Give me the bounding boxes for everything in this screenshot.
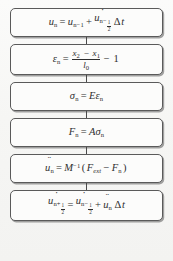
fraction-numerator: x2 − x1 (72, 49, 100, 59)
process-box-stress-update[interactable]: σn = E εn (10, 82, 163, 111)
constant-one: 1 (112, 54, 120, 65)
flow-step-strain-update: εn = x2 − x1 l0 − 1 (10, 44, 163, 82)
equation-velocity-update: un+12 = un−12 + un Δ t (48, 196, 125, 215)
flow-step-stress-update: σn = E εn (10, 82, 163, 118)
symbol-F-ext: Fext (87, 163, 102, 174)
process-box-force-update[interactable]: Fn = A σn (10, 118, 163, 147)
symbol-epsilon-n: εn (53, 54, 61, 65)
symbol-t: t (122, 200, 125, 211)
symbol-sigma-n: σn (70, 91, 79, 102)
equation-displacement-update: un = un−1 + un−12 Δ t (49, 13, 125, 32)
symbol-x-1: x1 (93, 49, 101, 58)
connector-line-5 (86, 183, 87, 190)
symbol-F-n: Fn (112, 163, 122, 174)
process-box-strain-update[interactable]: εn = x2 − x1 l0 − 1 (10, 44, 163, 75)
equation-strain-update: εn = x2 − x1 l0 − 1 (53, 49, 120, 69)
flow-step-displacement-update: un = un−1 + un−12 Δ t (10, 8, 163, 44)
symbol-delta: Δ (112, 200, 122, 211)
symbol-l-0: l0 (83, 61, 89, 70)
symbol-u-n-minus-1: un−1 (68, 17, 84, 28)
connector-line-4 (86, 147, 87, 154)
flowchart-diagram: un = un−1 + un−12 Δ t εn = x2 − x1 (0, 0, 173, 261)
fraction-one-half: 12 (88, 203, 92, 215)
fraction-denominator: l0 (83, 60, 89, 70)
symbol-uddot-n: un (103, 200, 112, 211)
equation-stress-update: σn = E εn (70, 91, 103, 102)
symbol-uddot-n: un (45, 163, 54, 174)
equation-force-update: Fn = A σn (69, 127, 105, 138)
process-box-displacement-update[interactable]: un = un−1 + un−12 Δ t (10, 8, 163, 37)
operator-equals: = (60, 54, 70, 65)
symbol-F-n: Fn (69, 127, 79, 138)
flow-step-acceleration-update: un = M−1 ( Fext − Fn ) (10, 154, 163, 190)
connector-line-1 (86, 37, 87, 44)
flow-step-force-update: Fn = A σn (10, 118, 163, 154)
operator-plus: + (84, 17, 94, 28)
symbol-epsilon-n: εn (95, 91, 103, 102)
connector-line-3 (86, 111, 87, 118)
operator-equals: = (79, 91, 89, 102)
equation-acceleration-update: un = M−1 ( Fext − Fn ) (45, 163, 128, 174)
symbol-udot-n-plus-half: un+12 (48, 196, 65, 215)
symbol-x-2: x2 (72, 49, 80, 58)
fraction-one-half: 12 (107, 20, 111, 32)
operator-equals: = (54, 163, 64, 174)
operator-equals: = (57, 17, 67, 28)
operator-equals: = (79, 127, 89, 138)
process-box-velocity-update[interactable]: un+12 = un−12 + un Δ t (10, 190, 163, 221)
fraction-strain: x2 − x1 l0 (72, 49, 100, 69)
fraction-one-half: 12 (61, 203, 65, 215)
flow-step-velocity-update: un+12 = un−12 + un Δ t (10, 190, 163, 221)
symbol-udot-n-minus-half: un−12 (76, 196, 93, 215)
operator-equals: = (65, 200, 75, 211)
symbol-delta: Δ (111, 17, 121, 28)
operator-minus: − (101, 163, 111, 174)
symbol-u-n: un (49, 17, 58, 28)
process-box-acceleration-update[interactable]: un = M−1 ( Fext − Fn ) (10, 154, 163, 183)
operator-minus: − (82, 48, 90, 58)
symbol-t: t (121, 17, 124, 28)
symbol-M-inverse: M−1 (64, 163, 80, 174)
operator-minus: − (102, 54, 112, 65)
paren-close: ) (122, 163, 128, 174)
symbol-udot-n-minus-half: un−12 (94, 13, 111, 32)
operator-plus: + (93, 200, 103, 211)
symbol-sigma-n: σn (96, 127, 105, 138)
connector-line-2 (86, 75, 87, 82)
